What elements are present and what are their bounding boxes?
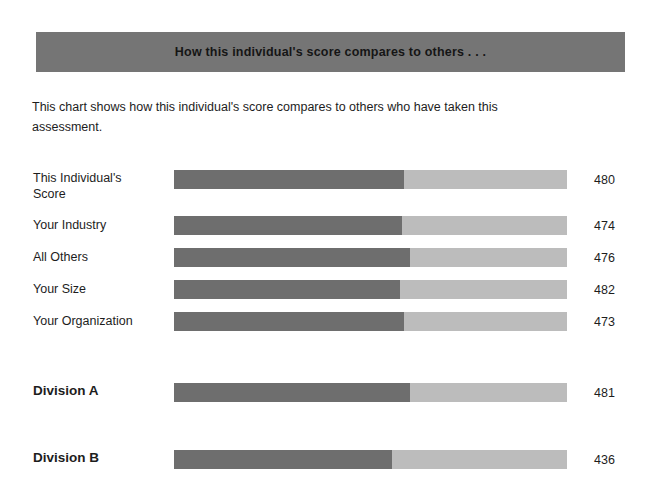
bar-fill	[174, 170, 404, 189]
bar-fill	[174, 383, 410, 402]
row-value: 473	[594, 314, 644, 330]
bar-fill	[174, 280, 400, 299]
row-label: Your Size	[33, 281, 173, 297]
row-label-line: Your Organization	[33, 313, 173, 329]
row-value: 476	[594, 250, 644, 266]
row-label-line: Your Industry	[33, 217, 173, 233]
row-label-line: Division A	[33, 383, 173, 399]
bar-track	[174, 248, 567, 267]
row-value: 474	[594, 218, 644, 234]
bar-track	[174, 280, 567, 299]
row-value: 481	[594, 385, 644, 401]
row-label: All Others	[33, 249, 173, 265]
row-label: Division A	[33, 383, 173, 399]
bar-track	[174, 216, 567, 235]
row-label-line: Your Size	[33, 281, 173, 297]
bar-track	[174, 383, 567, 402]
bar-fill	[174, 312, 404, 331]
row-label-line: All Others	[33, 249, 173, 265]
row-value: 480	[594, 172, 644, 188]
bar-track	[174, 450, 567, 469]
row-label: Division B	[33, 450, 173, 466]
bar-fill	[174, 450, 392, 469]
bar-fill	[174, 248, 410, 267]
row-label-line: This Individual's	[33, 170, 173, 186]
row-value: 436	[594, 452, 644, 468]
bar-fill	[174, 216, 402, 235]
row-label-line: Score	[33, 186, 173, 202]
row-label: This Individual'sScore	[33, 170, 173, 202]
row-label: Your Industry	[33, 217, 173, 233]
row-label: Your Organization	[33, 313, 173, 329]
bar-track	[174, 170, 567, 189]
row-label-line: Division B	[33, 450, 173, 466]
bar-track	[174, 312, 567, 331]
row-value: 482	[594, 282, 644, 298]
comparison-bar-chart: This Individual'sScore480Your Industry47…	[0, 0, 652, 494]
